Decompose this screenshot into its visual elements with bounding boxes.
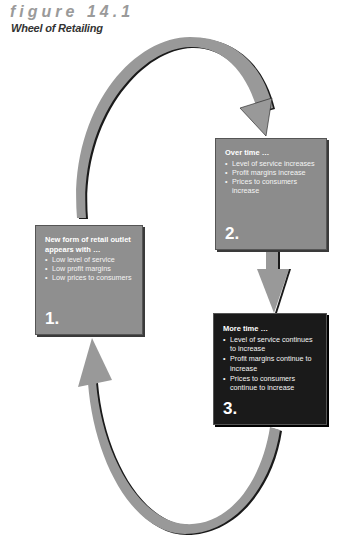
- stage-2-bullet: Profit margins increase: [225, 168, 318, 177]
- stage-3-bullet: Prices to consumers continue to increase: [223, 374, 318, 394]
- stage-1-bullets: Low level of service Low profit margins …: [45, 255, 134, 282]
- stage-2-bullet: Level of service increases: [225, 159, 318, 168]
- stage-3-bullet: Profit margins continue to increase: [223, 354, 318, 374]
- stage-1-heading: New form of retail outlet appears with …: [45, 235, 134, 254]
- stage-2-number: 2.: [225, 225, 239, 243]
- stage-1-box: New form of retail outlet appears with ……: [35, 225, 143, 335]
- stage-3-number: 3.: [223, 400, 237, 418]
- stage-1-bullet: Low profit margins: [45, 264, 134, 273]
- stage-3-bullet: Level of service continues to increase: [223, 335, 318, 355]
- arrow-2-to-3: [257, 251, 291, 313]
- stage-3-bullets: Level of service continues to increase P…: [223, 335, 318, 394]
- stage-2-heading: Over time …: [225, 148, 318, 158]
- stage-2-bullet: Prices to consumers increase: [225, 177, 318, 195]
- stage-1-bullet: Low prices to consumers: [45, 273, 134, 282]
- stage-2-bullets: Level of service increases Profit margin…: [225, 159, 318, 195]
- stage-3-heading: More time …: [223, 324, 318, 334]
- stage-1-number: 1.: [45, 310, 59, 328]
- stage-2-box: Over time … Level of service increases P…: [215, 138, 327, 250]
- stage-3-box: More time … Level of service continues t…: [213, 313, 327, 425]
- stage-1-bullet: Low level of service: [45, 255, 134, 264]
